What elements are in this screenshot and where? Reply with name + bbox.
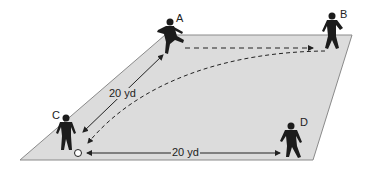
player-label-c: C — [52, 110, 60, 121]
distance-label-c-d: 20 yd — [171, 147, 200, 158]
drill-diagram: A B C D 20 yd 20 yd — [0, 0, 371, 172]
distance-label-c-a: 20 yd — [108, 88, 137, 99]
ball — [75, 150, 82, 157]
player-label-a: A — [176, 13, 183, 24]
player-label-d: D — [300, 117, 308, 128]
player-label-b: B — [340, 9, 347, 20]
